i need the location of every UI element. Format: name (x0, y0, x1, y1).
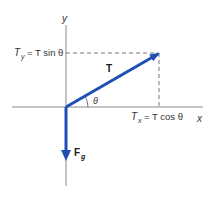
svg-text:T: T (14, 47, 21, 58)
angle-label: θ (93, 96, 98, 106)
gravity-label: F g (74, 147, 86, 161)
svg-text:y: y (20, 53, 25, 61)
svg-text:= T cos θ: = T cos θ (144, 111, 183, 122)
x-component-label: T x = T cos θ (131, 111, 183, 124)
tension-label: T (106, 63, 112, 74)
svg-text:T: T (131, 111, 138, 122)
x-axis-label: x (196, 113, 203, 124)
tension-vector (66, 54, 158, 107)
free-body-diagram: y x T θ T y = T sin θ T x = T cos θ F g (0, 0, 216, 197)
svg-text:= T sin θ: = T sin θ (27, 47, 63, 58)
svg-text:F: F (74, 147, 80, 158)
y-component-label: T y = T sin θ (14, 47, 63, 61)
gravity-arrowhead-icon (61, 150, 71, 161)
angle-arc (85, 96, 88, 107)
y-axis-label: y (61, 13, 68, 24)
svg-text:g: g (80, 153, 86, 161)
svg-text:x: x (137, 117, 142, 124)
